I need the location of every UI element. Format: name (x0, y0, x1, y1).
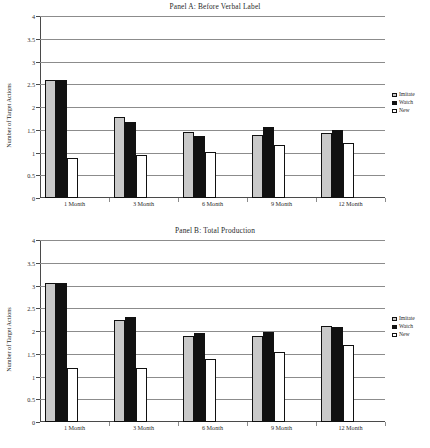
y-tick-label: 0.5 (27, 396, 35, 403)
bar-group-bars (247, 240, 316, 422)
bar-group (40, 16, 109, 198)
bar-group-bars (316, 16, 385, 198)
bar-group (178, 16, 247, 198)
bar-new (136, 368, 147, 422)
bar-imitate (321, 133, 332, 198)
x-tick-label: 12 Month (316, 424, 385, 436)
y-tick-label: 2.5 (27, 81, 35, 88)
y-tick-mark (36, 198, 40, 199)
y-tick-label: 2.5 (27, 305, 35, 312)
bar-imitate (252, 135, 263, 198)
bar-watch (56, 283, 67, 422)
bar-watch (125, 122, 136, 198)
bar-imitate (45, 80, 56, 198)
panel-a-y-axis-title: Number of Target Actions (2, 60, 14, 170)
x-tick-mark (385, 198, 386, 202)
legend-item-label: Watch (399, 324, 413, 330)
x-tick-label: 1 Month (40, 200, 109, 212)
panel-a-legend: ImitateWatchNew (392, 92, 430, 116)
panel-b-legend: ImitateWatchNew (392, 316, 430, 340)
figure: Panel A: Before Verbal Label Number of T… (0, 0, 430, 448)
bar-new (343, 143, 354, 199)
y-tick: 0 (40, 422, 385, 423)
bar-watch (194, 136, 205, 198)
legend-item-watch[interactable]: Watch (392, 324, 430, 330)
x-tick-label: 1 Month (40, 424, 109, 436)
legend-swatch-icon (392, 325, 397, 330)
bar-group-bars (40, 16, 109, 198)
bar-new (136, 155, 147, 198)
legend-item-imitate[interactable]: Imitate (392, 316, 430, 322)
legend-item-new[interactable]: New (392, 108, 430, 114)
panel-a-y-axis-title-text: Number of Target Actions (5, 83, 12, 147)
legend-item-imitate[interactable]: Imitate (392, 92, 430, 98)
x-tick-label: 3 Month (109, 200, 178, 212)
legend-swatch-icon (392, 109, 397, 114)
bar-group (109, 240, 178, 422)
bar-new (67, 158, 78, 198)
bar-watch (125, 317, 136, 422)
panel-b-y-axis-title-text: Number of Target Actions (5, 307, 12, 371)
bar-groups (40, 16, 385, 198)
bar-imitate (252, 336, 263, 422)
bar-group (247, 240, 316, 422)
x-tick-label: 12 Month (316, 200, 385, 212)
bar-group (178, 240, 247, 422)
legend-item-watch[interactable]: Watch (392, 100, 430, 106)
legend-swatch-icon (392, 101, 397, 106)
bar-imitate (183, 336, 194, 422)
bar-new (205, 152, 216, 198)
bar-group (40, 240, 109, 422)
y-tick-label: 3.5 (27, 259, 35, 266)
bar-group-bars (316, 240, 385, 422)
bar-imitate (114, 117, 125, 198)
x-tick-label: 9 Month (247, 200, 316, 212)
y-tick-label: 2 (32, 328, 35, 335)
bar-group-bars (109, 240, 178, 422)
bar-group (109, 16, 178, 198)
x-tick-mark (385, 422, 386, 426)
y-tick-label: 1.5 (27, 350, 35, 357)
legend-item-label: New (399, 108, 410, 114)
bar-groups (40, 240, 385, 422)
x-tick-label: 9 Month (247, 424, 316, 436)
x-tick-label: 3 Month (109, 424, 178, 436)
panel-a-x-tick-labels: 1 Month3 Month6 Month9 Month12 Month (40, 200, 385, 212)
panel-a-title: Panel A: Before Verbal Label (0, 2, 430, 11)
legend-item-new[interactable]: New (392, 332, 430, 338)
legend-item-label: Watch (399, 100, 413, 106)
x-tick-label: 6 Month (178, 200, 247, 212)
bar-watch (263, 127, 274, 198)
y-tick-label: 1 (32, 373, 35, 380)
y-tick-label: 4 (32, 237, 35, 244)
bar-group-bars (247, 16, 316, 198)
y-tick-label: 0.5 (27, 172, 35, 179)
bar-group (316, 16, 385, 198)
bar-group-bars (109, 16, 178, 198)
bar-new (274, 352, 285, 422)
bar-imitate (183, 132, 194, 198)
bar-watch (332, 327, 343, 422)
bar-watch (263, 332, 274, 422)
panel-a-plot-area: 00.511.522.533.54 (40, 16, 385, 198)
panel-a: Panel A: Before Verbal Label Number of T… (0, 0, 430, 224)
bar-watch (56, 80, 67, 198)
y-tick-label: 4 (32, 13, 35, 20)
bar-imitate (114, 320, 125, 422)
bar-new (343, 345, 354, 422)
bar-imitate (45, 283, 56, 422)
y-tick-label: 0 (32, 195, 35, 202)
legend-swatch-icon (392, 317, 397, 322)
legend-item-label: Imitate (399, 316, 415, 322)
panel-b-y-axis-title: Number of Target Actions (2, 284, 14, 394)
bar-group (316, 240, 385, 422)
y-tick-label: 3 (32, 282, 35, 289)
panel-b-title: Panel B: Total Production (0, 226, 430, 235)
y-tick: 0 (40, 198, 385, 199)
legend-swatch-icon (392, 333, 397, 338)
y-tick-label: 3 (32, 58, 35, 65)
bar-new (274, 145, 285, 198)
panel-b-x-tick-labels: 1 Month3 Month6 Month9 Month12 Month (40, 424, 385, 436)
bar-group-bars (178, 16, 247, 198)
x-tick-label: 6 Month (178, 424, 247, 436)
